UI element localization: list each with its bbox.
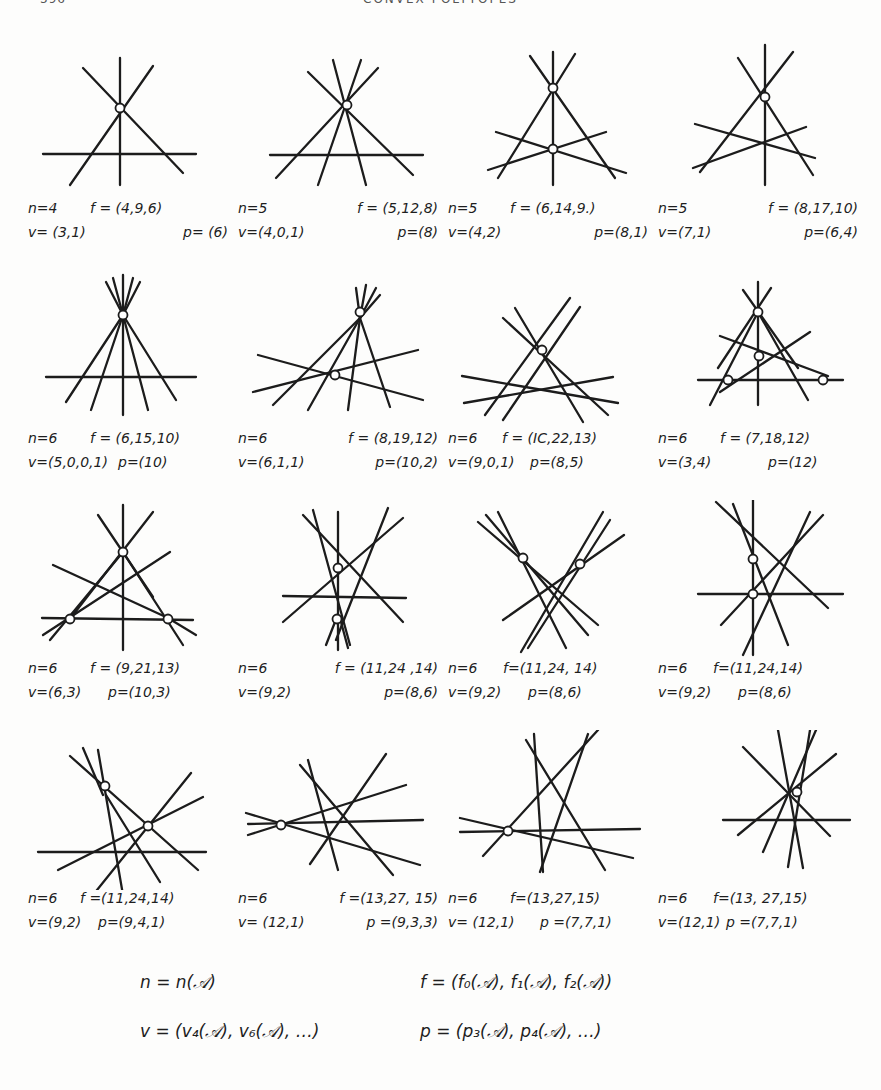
n-value: n=6 [448, 430, 478, 446]
p-vector: p=(8,1) [594, 224, 648, 240]
arrangement-cell: n=6f = (9,21,13) v=(6,3)p=(10,3) [28, 500, 238, 730]
line-arrangement-diagram [658, 40, 868, 200]
running-title: CONVEX POLYTOPES [0, 0, 881, 6]
n-value: n=5 [448, 200, 478, 216]
arrangement-cell: n=6f=(13, 27,15) v=(12,1)p =(7,7,1) [658, 730, 868, 960]
v-vector: v=(6,3) [28, 684, 81, 700]
n-value: n=6 [658, 430, 688, 446]
v-vector: v=(6,1,1) [238, 454, 305, 470]
arrangement-cell: n=4f = (4,9,6) v= (3,1)p= (6) [28, 40, 238, 270]
line-arrangement-diagram [28, 730, 238, 890]
figure-row-4: n=6f =(11,24,14) v=(9,2)p=(9,4,1) n=6f =… [28, 730, 868, 960]
line-arrangement-diagram [28, 270, 238, 430]
arrangement-cell: n=6f = (11,24 ,14) v=(9,2)p=(8,6) [238, 500, 448, 730]
arrangement-cell: n=6f = (IC,22,13) v=(9,0,1)p=(8,5) [448, 270, 658, 500]
f-vector: f=(13, 27,15) [713, 890, 807, 906]
n-value: n=5 [658, 200, 688, 216]
arrangement-cell: n=6f = (7,18,12) v=(3,4)p=(12) [658, 270, 868, 500]
f-vector: f =(11,24,14) [80, 890, 174, 906]
arrangement-cell: n=5f = (6,14,9.) v=(4,2)p=(8,1) [448, 40, 658, 270]
v-vector: v= (12,1) [238, 914, 305, 930]
n-value: n=6 [448, 890, 478, 906]
f-vector: f = (8,17,10) [768, 200, 858, 216]
v-vector: v=(9,2) [658, 684, 711, 700]
p-vector: p=(10) [118, 454, 167, 470]
p-vector: p=(10,2) [375, 454, 438, 470]
legend-v-definition: v = (v₄(𝒜), v₆(𝒜), …) [140, 1021, 319, 1041]
f-vector: f=(13,27,15) [510, 890, 600, 906]
f-vector: f = (9,21,13) [90, 660, 180, 676]
v-vector: v=(9,2) [238, 684, 291, 700]
arrangement-cell: n=6f=(11,24,14) v=(9,2)p=(8,6) [658, 500, 868, 730]
v-vector: v=(9,2) [28, 914, 81, 930]
n-value: n=6 [238, 430, 268, 446]
n-value: n=6 [658, 660, 688, 676]
f-vector: f = (IC,22,13) [502, 430, 597, 446]
legend-f-definition: f = (f₀(𝒜), f₁(𝒜), f₂(𝒜)) [420, 972, 612, 992]
line-arrangement-diagram [448, 270, 658, 430]
p-vector: p=(8,6) [738, 684, 792, 700]
line-arrangement-diagram [448, 730, 658, 890]
arrangement-cell: n=6f =(13,27, 15) v= (12,1)p =(9,3,3) [238, 730, 448, 960]
v-vector: v=(5,0,0,1) [28, 454, 108, 470]
p-vector: p=(6,4) [804, 224, 858, 240]
f-vector: f = (6,14,9.) [510, 200, 595, 216]
arrangement-cell: n=6f = (8,19,12) v=(6,1,1)p=(10,2) [238, 270, 448, 500]
p-vector: p=(12) [768, 454, 817, 470]
v-vector: v=(4,0,1) [238, 224, 305, 240]
p-vector: p =(9,3,3) [366, 914, 438, 930]
v-vector: v=(9,0,1) [448, 454, 515, 470]
n-value: n=4 [28, 200, 58, 216]
line-arrangement-diagram [658, 730, 868, 890]
line-arrangement-diagram [28, 40, 238, 200]
p-vector: p=(8,6) [384, 684, 438, 700]
n-value: n=5 [238, 200, 268, 216]
v-vector: v= (12,1) [448, 914, 515, 930]
arrangement-cell: n=6f = (6,15,10) v=(5,0,0,1)p=(10) [28, 270, 238, 500]
f-vector: f = (7,18,12) [720, 430, 810, 446]
p-vector: p=(8) [398, 224, 438, 240]
n-value: n=6 [28, 890, 58, 906]
line-arrangement-diagram [448, 40, 658, 200]
n-value: n=6 [28, 430, 58, 446]
legend-p-definition: p = (p₃(𝒜), p₄(𝒜), …) [420, 1021, 601, 1041]
page-header: 396 CONVEX POLYTOPES [0, 0, 881, 8]
line-arrangement-diagram [238, 270, 448, 430]
line-arrangement-diagram [658, 270, 868, 430]
f-vector: f =(13,27, 15) [339, 890, 438, 906]
n-value: n=6 [28, 660, 58, 676]
v-vector: v=(7,1) [658, 224, 711, 240]
arrangement-figure-grid: n=4f = (4,9,6) v= (3,1)p= (6) n=5f = (5,… [28, 40, 868, 960]
f-vector: f = (11,24 ,14) [335, 660, 438, 676]
figure-row-3: n=6f = (9,21,13) v=(6,3)p=(10,3) n=6f = … [28, 500, 868, 730]
p-vector: p=(8,6) [528, 684, 582, 700]
legend-n-definition: n = n(𝒜) [140, 972, 216, 992]
p-vector: p=(9,4,1) [98, 914, 165, 930]
n-value: n=6 [238, 890, 268, 906]
n-value: n=6 [238, 660, 268, 676]
p-vector: p=(8,5) [530, 454, 584, 470]
line-arrangement-diagram [238, 500, 448, 660]
p-vector: p =(7,7,1) [726, 914, 798, 930]
line-arrangement-diagram [28, 500, 238, 660]
p-vector: p =(7,7,1) [540, 914, 612, 930]
arrangement-cell: n=6f =(11,24,14) v=(9,2)p=(9,4,1) [28, 730, 238, 960]
v-vector: v= (3,1) [28, 224, 86, 240]
figure-row-1: n=4f = (4,9,6) v= (3,1)p= (6) n=5f = (5,… [28, 40, 868, 270]
f-vector: f = (8,19,12) [348, 430, 438, 446]
n-value: n=6 [658, 890, 688, 906]
f-vector: f = (4,9,6) [90, 200, 162, 216]
line-arrangement-diagram [448, 500, 658, 660]
arrangement-cell: n=5f = (8,17,10) v=(7,1)p=(6,4) [658, 40, 868, 270]
line-arrangement-diagram [238, 730, 448, 890]
f-vector: f=(11,24,14) [713, 660, 803, 676]
line-arrangement-diagram [658, 500, 868, 660]
figure-row-2: n=6f = (6,15,10) v=(5,0,0,1)p=(10) n=6f … [28, 270, 868, 500]
p-vector: p= (6) [183, 224, 228, 240]
n-value: n=6 [448, 660, 478, 676]
p-vector: p=(10,3) [108, 684, 171, 700]
f-vector: f = (6,15,10) [90, 430, 180, 446]
v-vector: v=(4,2) [448, 224, 501, 240]
line-arrangement-diagram [238, 40, 448, 200]
f-vector: f=(11,24, 14) [503, 660, 597, 676]
